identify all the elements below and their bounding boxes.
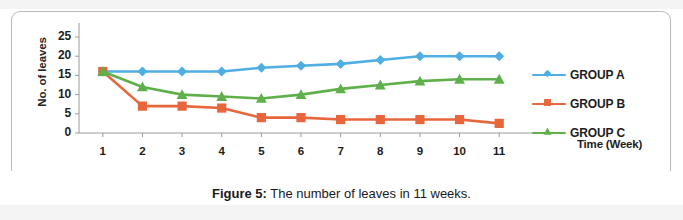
- legend-swatch-diamond-icon: [532, 68, 566, 82]
- chart-legend: GROUP AGROUP BGROUP C: [532, 60, 662, 147]
- figure-caption: Figure 5: The number of leaves in 11 wee…: [0, 186, 683, 201]
- legend-item-group-c[interactable]: GROUP C: [532, 118, 662, 147]
- legend-swatch-triangle-icon: [532, 126, 566, 140]
- chart-plot-region: No. of leaves 0510152025 1234567891011 T…: [11, 11, 671, 173]
- figure-caption-label: Figure 5:: [212, 186, 267, 201]
- legend-item-group-a[interactable]: GROUP A: [532, 60, 662, 89]
- scan-artifact-top: [0, 0, 683, 9]
- series-group-a: [98, 51, 504, 76]
- legend-item-group-b[interactable]: GROUP B: [532, 89, 662, 118]
- legend-swatch-square-icon: [532, 97, 566, 111]
- figure-caption-text: The number of leaves in 11 weeks.: [270, 186, 471, 201]
- legend-label: GROUP A: [570, 68, 625, 82]
- legend-label: GROUP B: [570, 97, 625, 111]
- legend-label: GROUP C: [570, 126, 625, 140]
- figure-container: No. of leaves 0510152025 1234567891011 T…: [0, 0, 683, 220]
- scan-artifact-bottom: [0, 205, 683, 220]
